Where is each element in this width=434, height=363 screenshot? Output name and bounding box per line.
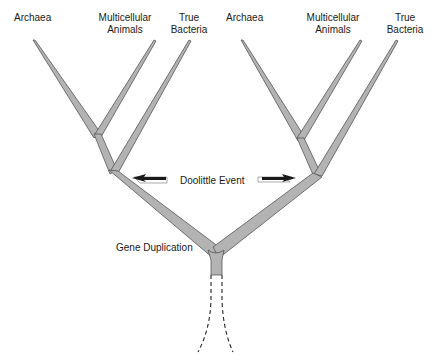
branches	[33, 40, 398, 275]
ancestral-lineage-dashed	[198, 275, 233, 352]
right-multicellular-line2: Animals	[298, 24, 368, 36]
left-multicellular-line2: Animals	[90, 24, 160, 36]
left-bacteria-branch	[111, 40, 191, 173]
right-bacteria-line2: Bacteria	[383, 24, 427, 36]
doolittle-event-label: Doolittle Event	[180, 175, 244, 187]
left-archaea-label: Archaea	[14, 12, 51, 24]
root-trunk	[208, 250, 224, 275]
left-archaea-branch	[33, 40, 100, 138]
gene-duplication-label: Gene Duplication	[116, 242, 193, 254]
left-bacteria-label: True Bacteria	[167, 12, 211, 36]
right-bacteria-branch	[314, 40, 398, 176]
left-multicellular-branch	[95, 40, 156, 137]
left-multicellular-label: Multicellular Animals	[90, 12, 160, 36]
left-multicellular-line1: Multicellular	[90, 12, 160, 24]
right-multicellular-branch	[297, 40, 362, 142]
left-bacteria-line1: True	[167, 12, 211, 24]
right-arrow-icon	[258, 174, 296, 182]
left-arrow-icon	[132, 174, 167, 183]
right-multicellular-label: Multicellular Animals	[298, 12, 368, 36]
right-bacteria-line1: True	[383, 12, 427, 24]
right-archaea-label: Archaea	[226, 12, 263, 24]
left-bacteria-line2: Bacteria	[167, 24, 211, 36]
right-multicellular-line1: Multicellular	[298, 12, 368, 24]
right-bacteria-label: True Bacteria	[383, 12, 427, 36]
right-archaea-branch	[241, 40, 304, 141]
